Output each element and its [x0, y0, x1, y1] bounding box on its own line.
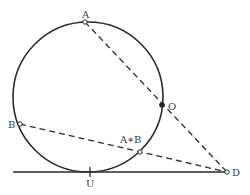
- dashed-line-b-d: [20, 124, 227, 172]
- label-b: B: [8, 119, 15, 130]
- point-b-marker: [18, 122, 22, 126]
- point-a-star-b-marker: [138, 150, 142, 154]
- point-o-marker: [160, 103, 165, 108]
- point-a-marker: [83, 20, 87, 24]
- dashed-line-a-d: [85, 22, 227, 172]
- geometry-diagram: A B O A∗B U D: [0, 0, 250, 195]
- label-o: O: [168, 101, 176, 112]
- label-a-star-b: A∗B: [119, 134, 141, 145]
- point-d-marker: [225, 170, 229, 174]
- label-u: U: [86, 178, 94, 189]
- label-a: A: [81, 9, 90, 20]
- label-d: D: [232, 167, 240, 178]
